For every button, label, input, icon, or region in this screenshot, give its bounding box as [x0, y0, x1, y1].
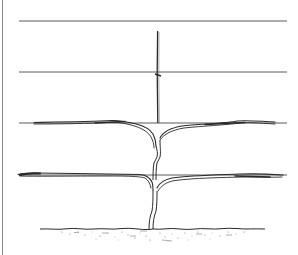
trellis-illustration [0, 0, 298, 255]
trellis-wires [19, 21, 287, 175]
ground [40, 228, 265, 229]
upper-cordon [34, 120, 275, 148]
lower-cordon [18, 173, 283, 191]
soil-dashes [74, 231, 232, 241]
trunk-lower [149, 190, 157, 229]
stake-tie [155, 74, 161, 76]
stake [155, 31, 161, 123]
soil-stipple [62, 231, 245, 241]
